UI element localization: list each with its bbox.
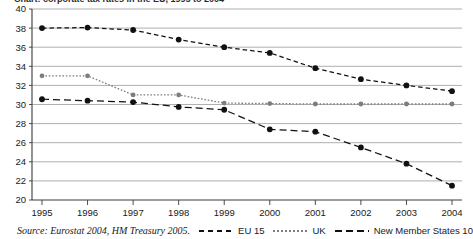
legend-swatch-eu15-icon xyxy=(199,230,233,232)
svg-text:1996: 1996 xyxy=(77,207,98,218)
svg-text:40: 40 xyxy=(15,3,26,14)
legend-label-eu15: EU 15 xyxy=(238,225,264,236)
legend-swatch-nms-icon xyxy=(335,230,369,232)
svg-text:26: 26 xyxy=(15,137,26,148)
legend-label-new-member-states: New Member States 10 xyxy=(374,225,473,236)
svg-text:30: 30 xyxy=(15,99,26,110)
source-note: Source: Eurostat 2004, HM Treasury 2005. xyxy=(17,225,190,236)
svg-text:34: 34 xyxy=(15,61,26,72)
legend-label-uk: UK xyxy=(312,225,325,236)
svg-text:36: 36 xyxy=(15,42,26,53)
legend-item-new-member-states: New Member States 10 xyxy=(335,225,473,236)
svg-text:2002: 2002 xyxy=(350,207,371,218)
svg-text:20: 20 xyxy=(15,194,26,205)
gridlines xyxy=(32,9,462,200)
svg-text:1997: 1997 xyxy=(123,207,144,218)
svg-text:1995: 1995 xyxy=(31,207,52,218)
svg-text:2001: 2001 xyxy=(305,207,326,218)
svg-text:2004: 2004 xyxy=(441,207,462,218)
svg-text:22: 22 xyxy=(15,175,26,186)
x-axis-labels: 1995199619971998199920002001200220032004 xyxy=(31,207,462,218)
x-axis-ticks xyxy=(42,200,452,205)
legend-item-uk: UK xyxy=(273,225,325,236)
svg-text:38: 38 xyxy=(15,23,26,34)
legend-swatch-uk-icon xyxy=(273,230,307,232)
svg-text:2003: 2003 xyxy=(396,207,417,218)
y-axis-labels: 4038363432302826242220 xyxy=(15,3,26,205)
figure-footer: Source: Eurostat 2004, HM Treasury 2005.… xyxy=(0,222,469,239)
svg-text:32: 32 xyxy=(15,80,26,91)
data-series-group xyxy=(39,25,455,189)
svg-text:28: 28 xyxy=(15,118,26,129)
legend-item-eu15: EU 15 xyxy=(199,225,264,236)
svg-text:24: 24 xyxy=(15,156,26,167)
svg-text:2000: 2000 xyxy=(259,207,280,218)
svg-text:1999: 1999 xyxy=(214,207,235,218)
svg-text:1998: 1998 xyxy=(168,207,189,218)
